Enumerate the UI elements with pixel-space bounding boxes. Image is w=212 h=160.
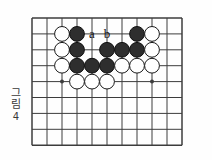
stone-white[interactable] [145, 27, 160, 42]
stone-black[interactable] [115, 42, 130, 57]
stone-white[interactable] [115, 58, 130, 73]
stone-black[interactable] [130, 27, 145, 42]
figure-caption: 그 림 4 [6, 88, 26, 122]
stone-black[interactable] [100, 42, 115, 57]
stone-black[interactable] [130, 42, 145, 57]
stone-black[interactable] [85, 58, 100, 73]
caption-char-2: 림 [6, 99, 26, 110]
stone-white[interactable] [70, 74, 85, 89]
stone-white[interactable] [130, 58, 145, 73]
stone-white[interactable] [55, 42, 70, 57]
star-point [60, 80, 64, 84]
stone-black[interactable] [70, 42, 85, 57]
stone-white[interactable] [145, 42, 160, 57]
figure-container: 그 림 4 ab [0, 0, 212, 160]
stone-black[interactable] [100, 58, 115, 73]
stone-white[interactable] [145, 58, 160, 73]
point-label-b[interactable]: b [100, 26, 114, 42]
stone-black[interactable] [70, 27, 85, 42]
star-point [150, 80, 154, 84]
stone-white[interactable] [85, 74, 100, 89]
figure-caption-text: 그 림 [6, 88, 26, 110]
stone-white[interactable] [100, 74, 115, 89]
point-label-a[interactable]: a [85, 26, 99, 42]
figure-number: 4 [6, 112, 26, 122]
go-board [0, 0, 212, 160]
stone-black[interactable] [70, 58, 85, 73]
stone-white[interactable] [55, 58, 70, 73]
stone-white[interactable] [55, 27, 70, 42]
